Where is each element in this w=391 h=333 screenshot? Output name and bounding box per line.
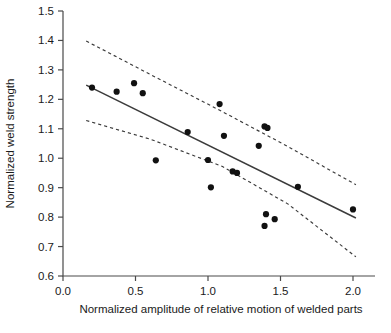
data-point bbox=[114, 89, 120, 95]
x-tick-label: 0.5 bbox=[128, 285, 144, 297]
data-point bbox=[256, 143, 262, 149]
data-point bbox=[153, 157, 159, 163]
y-axis-title: Normalized weld strength bbox=[4, 79, 16, 209]
y-tick-label: 1.0 bbox=[38, 152, 54, 164]
data-point bbox=[264, 125, 270, 131]
data-point bbox=[261, 223, 267, 229]
y-tick-label: 0.9 bbox=[38, 182, 54, 194]
data-point bbox=[208, 184, 214, 190]
x-tick-label: 1.0 bbox=[200, 285, 216, 297]
data-point bbox=[185, 129, 191, 135]
data-point bbox=[89, 84, 95, 90]
y-tick-label: 1.1 bbox=[38, 123, 54, 135]
data-point bbox=[295, 184, 301, 190]
x-axis-title: Normalized amplitude of relative motion … bbox=[79, 303, 362, 315]
upper-confidence-band bbox=[86, 41, 356, 185]
x-tick-label: 2.0 bbox=[345, 285, 361, 297]
data-point bbox=[221, 133, 227, 139]
data-point bbox=[263, 211, 269, 217]
data-point bbox=[205, 157, 211, 163]
y-tick-label: 1.2 bbox=[38, 93, 54, 105]
y-tick-label: 1.5 bbox=[38, 5, 54, 17]
y-tick-label: 0.7 bbox=[38, 241, 54, 253]
y-tick-label: 1.4 bbox=[38, 34, 55, 46]
data-point bbox=[140, 90, 146, 96]
plot-axes bbox=[63, 11, 375, 276]
y-tick-label: 1.3 bbox=[38, 64, 54, 76]
lower-confidence-band bbox=[86, 121, 356, 257]
x-tick-label: 0.0 bbox=[55, 285, 71, 297]
data-point bbox=[272, 216, 278, 222]
data-point bbox=[217, 101, 223, 107]
data-point bbox=[350, 206, 356, 212]
data-point bbox=[131, 80, 137, 86]
y-tick-label: 0.8 bbox=[38, 211, 54, 223]
data-point bbox=[234, 170, 240, 176]
scatter-plot: 0.60.70.80.91.01.11.21.31.41.50.00.51.01… bbox=[0, 0, 391, 333]
chart-figure: 0.60.70.80.91.01.11.21.31.41.50.00.51.01… bbox=[0, 0, 391, 333]
x-tick-label: 1.5 bbox=[273, 285, 289, 297]
y-tick-label: 0.6 bbox=[38, 270, 54, 282]
